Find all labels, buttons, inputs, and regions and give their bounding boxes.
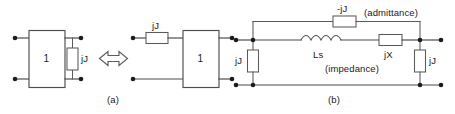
equivalence-arrow-icon <box>100 52 128 66</box>
terminal-dot-right-bottom <box>79 77 84 82</box>
terminal-dot-left-top <box>13 36 18 41</box>
terminal-dot-b-left-bottom <box>234 83 239 88</box>
series-label-jj-right: jJ <box>152 21 159 31</box>
caption-b: (b) <box>328 95 340 105</box>
component-left-shunt-jj <box>248 50 259 72</box>
component-minus-jj-admittance <box>333 16 356 27</box>
double-headed-arrow-shape <box>100 52 128 66</box>
label-minus-jj: -jJ <box>337 4 347 14</box>
terminal-dot-b-right-bottom <box>439 83 444 88</box>
label-right-shunt-jj: jJ <box>429 56 436 66</box>
component-jx-impedance <box>379 35 402 46</box>
series-component-jj <box>146 33 168 44</box>
label-jx: jX <box>384 50 393 60</box>
terminal-dot-right-net-right-bottom <box>230 77 235 82</box>
terminal-dot-b-right-top <box>439 38 444 43</box>
circuit-figure: 1 jJ jJ 1 (a) -jJ (admittance) Ls jX (im… <box>0 0 455 114</box>
terminal-dot-left-bottom <box>13 77 18 82</box>
component-right-shunt-jj <box>415 50 426 72</box>
inductor-ls <box>301 36 341 41</box>
terminal-dot-right-net-right-top <box>230 36 235 41</box>
shunt-component-jj <box>67 48 78 70</box>
panel-b-network <box>234 16 444 87</box>
shunt-label-jj-left: jJ <box>81 54 88 64</box>
label-left-shunt-jj: jJ <box>235 56 242 66</box>
node-dot-b-right-junction-top <box>418 38 423 43</box>
terminal-dot-right-top <box>79 36 84 41</box>
node-dot-b-left-junction-top <box>251 38 256 43</box>
panel-a-right-network <box>131 31 235 88</box>
block-label-1-left: 1 <box>44 54 50 64</box>
annotation-admittance: (admittance) <box>364 8 418 18</box>
terminal-dot-right-net-left-bottom <box>131 77 136 82</box>
label-ls-inductor: Ls <box>313 50 323 60</box>
terminal-dot-right-net-left-top <box>131 36 136 41</box>
node-dot-b-left-junction-bottom <box>251 83 256 88</box>
node-dot-b-right-junction-bottom <box>418 83 423 88</box>
caption-a: (a) <box>107 95 119 105</box>
terminal-dot-b-left-top <box>234 38 239 43</box>
block-label-1-right: 1 <box>198 54 204 64</box>
annotation-impedance: (impedance) <box>325 64 379 74</box>
